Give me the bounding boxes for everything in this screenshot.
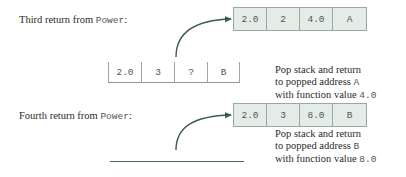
fourth-return-arrow-icon — [176, 115, 231, 150]
arrows-layer — [0, 0, 406, 177]
third-return-arrow-icon — [176, 19, 231, 57]
